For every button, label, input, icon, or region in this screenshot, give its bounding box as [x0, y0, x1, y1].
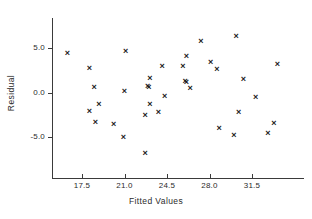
x-tick-label: 21.0: [105, 181, 145, 190]
data-point: [92, 119, 99, 126]
data-point: [142, 150, 149, 157]
data-point: [120, 134, 127, 141]
data-point: [155, 109, 162, 116]
data-point: [147, 101, 154, 108]
x-axis-title: Fitted Values: [0, 196, 312, 206]
x-tick-mark: [167, 174, 168, 179]
data-point: [264, 130, 271, 137]
y-tick-label-wrap: -5.0: [0, 132, 45, 142]
data-point: [183, 53, 190, 60]
y-axis-title: Residual: [6, 58, 16, 128]
y-tick-label: 5.0: [33, 43, 45, 52]
data-point: [86, 108, 93, 115]
data-point: [207, 59, 214, 66]
x-tick-mark: [82, 174, 83, 179]
data-point: [122, 48, 129, 55]
y-tick-mark: [48, 93, 53, 94]
data-point: [142, 112, 149, 119]
data-point: [233, 33, 240, 40]
y-tick-mark: [48, 137, 53, 138]
data-point: [161, 93, 168, 100]
x-tick-mark: [252, 174, 253, 179]
data-point: [187, 85, 194, 92]
data-point: [230, 132, 237, 139]
y-tick-label: -5.0: [30, 132, 45, 141]
data-point: [96, 101, 103, 108]
data-point: [198, 38, 205, 45]
data-point: [159, 63, 166, 70]
data-point: [274, 61, 281, 68]
x-axis-line: [52, 178, 304, 179]
data-point: [121, 88, 128, 95]
x-tick-label: 24.5: [147, 181, 187, 190]
data-point: [252, 94, 259, 101]
y-tick-label-wrap: 5.0: [0, 43, 45, 53]
y-tick-label: 0.0: [33, 88, 45, 97]
data-point: [213, 66, 220, 73]
data-point: [235, 109, 242, 116]
x-tick-label: 31.5: [232, 181, 272, 190]
y-tick-mark: [48, 48, 53, 49]
x-tick-label: 17.5: [62, 181, 102, 190]
scatter-plot: 5.00.0-5.0 17.521.024.528.031.5 Fitted V…: [0, 0, 312, 219]
data-point: [240, 76, 247, 83]
x-tick-label: 28.0: [190, 181, 230, 190]
data-point: [91, 84, 98, 91]
data-point: [86, 65, 93, 72]
data-point: [110, 121, 117, 128]
data-point: [64, 50, 71, 57]
x-tick-mark: [210, 174, 211, 179]
x-tick-mark: [125, 174, 126, 179]
data-point: [216, 125, 223, 132]
data-point: [270, 120, 277, 127]
data-point: [179, 63, 186, 70]
data-point: [145, 84, 152, 91]
y-axis-line: [52, 18, 53, 178]
